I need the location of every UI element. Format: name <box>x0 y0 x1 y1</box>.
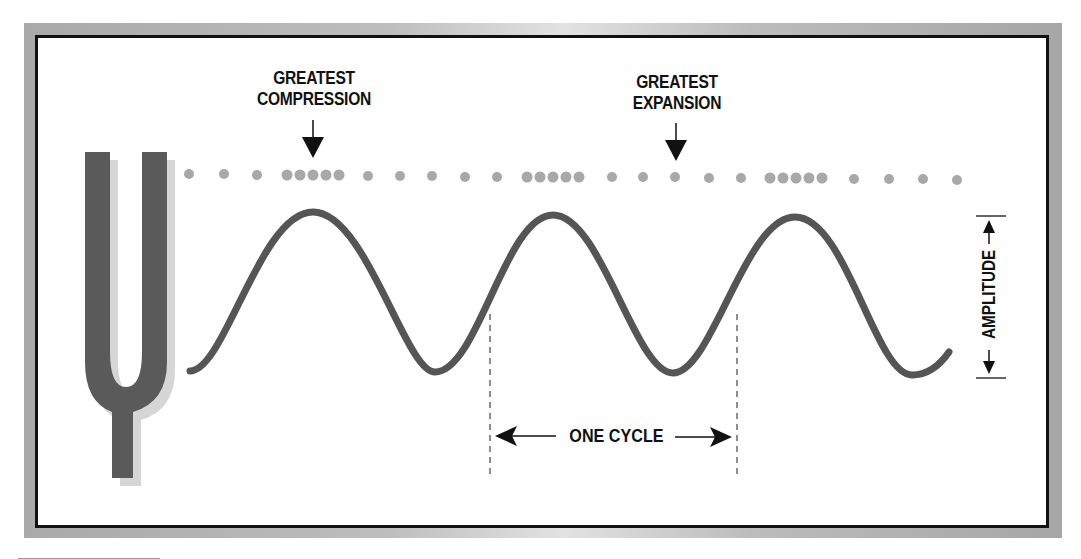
diagram-canvas <box>0 0 1081 559</box>
compression-label-line1: GREATEST <box>257 67 372 88</box>
expansion-label-line2: EXPANSION <box>628 92 726 113</box>
compression-arrow-down-icon <box>302 120 324 158</box>
expansion-label-line1: GREATEST <box>628 71 726 92</box>
greatest-expansion-label: GREATEST EXPANSION <box>628 71 726 113</box>
air-particles-row <box>184 169 962 185</box>
tuning-fork-icon <box>85 152 175 486</box>
expansion-arrow-down-icon <box>665 123 687 161</box>
one-cycle-label: ONE CYCLE <box>569 425 663 447</box>
compression-label-line2: COMPRESSION <box>257 88 372 109</box>
amplitude-label: AMPLITUDE <box>979 254 1000 339</box>
greatest-compression-label: GREATEST COMPRESSION <box>257 67 372 109</box>
sound-wave-curve <box>190 212 949 375</box>
